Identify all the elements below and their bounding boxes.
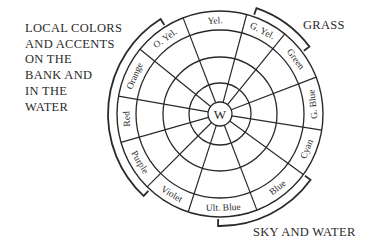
spoke-line <box>188 125 216 212</box>
caption-grass: GRASS <box>303 18 345 34</box>
caption-line: ON THE <box>25 52 122 68</box>
spoke-line <box>140 49 211 106</box>
segment-label-cyan: Cyan <box>298 138 315 161</box>
caption-line: BANK AND <box>25 68 122 84</box>
caption-sky-and-water: SKY AND WATER <box>253 225 356 241</box>
caption-line: AND ACCENTS <box>25 37 122 53</box>
segment-label-violet: Violet <box>159 184 184 205</box>
segment-label-green: Green <box>285 47 307 72</box>
spoke-line <box>228 34 285 105</box>
segment-label-purple: Purple <box>129 149 150 175</box>
caption-line: WATER <box>25 100 122 116</box>
segment-label-red: Red <box>121 111 132 127</box>
caption-local-colors: LOCAL COLORS AND ACCENTS ON THE BANK AND… <box>25 21 122 115</box>
segment-label-g-blue: G. Blue <box>306 89 319 119</box>
segment-label-ult-blue: Ult. Blue <box>206 202 241 213</box>
center-white-label: W <box>214 107 227 122</box>
spoke-line <box>223 15 247 103</box>
color-wheel-diagram: Yel.G. Yel.GreenG. BlueCyanBlueUlt. Blue… <box>0 0 375 245</box>
caption-line: LOCAL COLORS <box>25 21 122 37</box>
segment-label-g-yel: G. Yel. <box>248 20 276 41</box>
segment-label-orange: Orange <box>124 61 145 91</box>
segment-label-o-yel: O. Yel. <box>151 27 178 51</box>
caption-line: IN THE <box>25 84 122 100</box>
segment-label-yel: Yel. <box>207 15 223 26</box>
group-brackets <box>108 8 311 226</box>
